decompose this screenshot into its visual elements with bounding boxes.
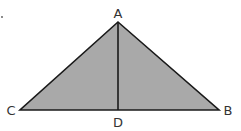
triangle-diagram: A C B D	[0, 0, 241, 131]
label-c: C	[6, 103, 15, 118]
label-b: B	[224, 103, 233, 118]
label-d: D	[113, 115, 123, 130]
stray-dot	[1, 16, 3, 18]
triangle-abc	[20, 22, 219, 110]
label-a: A	[114, 6, 123, 21]
